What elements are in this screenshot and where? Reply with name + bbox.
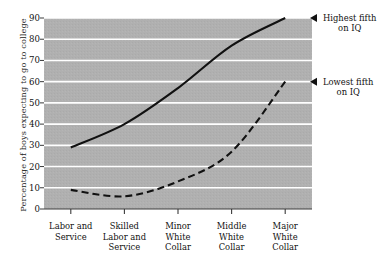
x-tick-label-line: Collar [165, 242, 191, 253]
x-tick-label-line: Labor and [103, 232, 146, 243]
series-annotation-line: on IQ [323, 87, 374, 97]
x-tick-label-line: White [217, 232, 247, 243]
x-tick-label-line: Labor and [49, 221, 92, 232]
x-tick-label-line: Service [103, 242, 146, 253]
x-tick-label-line: Collar [217, 242, 247, 253]
series-annotation-1: Highest fifthon IQ [323, 13, 376, 34]
x-tick-label-line: Skilled [103, 221, 146, 232]
x-tick-label: SkilledLabor andService [103, 221, 146, 253]
series-annotation-line: Lowest fifth [323, 77, 374, 87]
y-tick-label: 60 [20, 77, 40, 87]
y-tick-label: 0 [20, 204, 40, 214]
x-tick-label-line: White [272, 232, 298, 243]
y-tick-label: 10 [20, 183, 40, 193]
x-tick-label-line: Service [49, 232, 92, 243]
series-annotation-line: Highest fifth [323, 13, 376, 23]
y-tick-label: 30 [20, 140, 40, 150]
series-annotation-2: Lowest fifthon IQ [323, 77, 374, 98]
y-axis-tick-labels: 0102030405060708090 [16, 0, 40, 264]
x-tick-label-line: Middle [217, 221, 247, 232]
series-annotation-line: on IQ [323, 23, 376, 33]
y-tick-label: 40 [20, 119, 40, 129]
y-tick-label: 20 [20, 162, 40, 172]
chart-figure: Percentage of boys expecting to go to co… [0, 0, 385, 264]
x-tick-label: MinorWhiteCollar [165, 221, 191, 253]
x-tick-label: MiddleWhiteCollar [217, 221, 247, 253]
x-tick-label-line: Collar [272, 242, 298, 253]
y-tick-label: 50 [20, 98, 40, 108]
x-tick-label: MajorWhiteCollar [272, 221, 298, 253]
x-tick-label-line: Major [272, 221, 298, 232]
x-tick-label-line: White [165, 232, 191, 243]
x-tick-label: Labor andService [49, 221, 92, 242]
y-tick-label: 80 [20, 34, 40, 44]
y-tick-label: 90 [20, 13, 40, 23]
y-tick-label: 70 [20, 55, 40, 65]
x-tick-label-line: Minor [165, 221, 191, 232]
